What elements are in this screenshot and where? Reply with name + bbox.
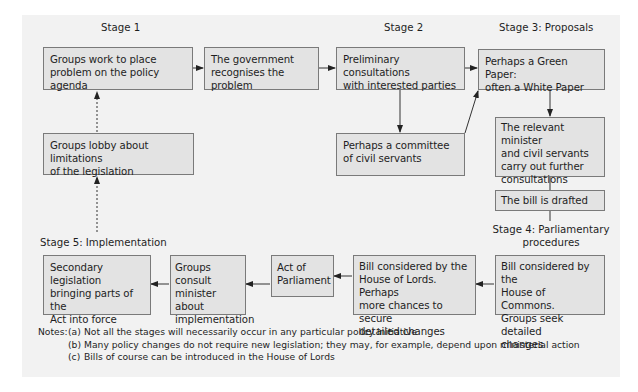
- box-act-of-parliament: Act of Parliament: [271, 255, 334, 297]
- note-b: (b) Many policy changes do not require n…: [38, 339, 580, 352]
- stage-1-label: Stage 1: [101, 21, 140, 34]
- box-committee: Perhaps a committee of civil servants: [336, 133, 465, 176]
- stage-5-label: Stage 5: Implementation: [40, 236, 167, 249]
- note-a: Notes: (a) Not all the stages will neces…: [38, 326, 580, 339]
- stage-4-label: Stage 4: Parliamentary procedures: [492, 223, 610, 249]
- box-groups-consult: Groups consult minister about implementa…: [170, 255, 246, 315]
- stage-2-label: Stage 2: [384, 21, 423, 34]
- box-preliminary-consultations: Preliminary consultations with intereste…: [336, 47, 465, 90]
- box-groups-lobby: Groups lobby about limitations of the le…: [43, 133, 194, 175]
- box-secondary-legislation: Secondary legislation bringing parts of …: [43, 255, 151, 315]
- box-groups-work: Groups work to place problem on the poli…: [43, 47, 193, 90]
- notes-heading: Notes:: [38, 326, 68, 339]
- notes: Notes: (a) Not all the stages will neces…: [38, 326, 580, 364]
- box-government-recognises: The government recognises the problem: [204, 47, 319, 90]
- box-green-paper: Perhaps a Green Paper: often a White Pap…: [478, 49, 605, 90]
- stage-3-label: Stage 3: Proposals: [499, 21, 593, 34]
- box-bill-drafted: The bill is drafted: [495, 190, 605, 211]
- box-relevant-minister: The relevant minister and civil servants…: [495, 117, 605, 177]
- box-house-of-lords: Bill considered by the House of Lords. P…: [353, 255, 476, 315]
- box-house-of-commons: Bill considered by the House of Commons.…: [495, 255, 605, 315]
- note-c: (c) Bills of course can be introduced in…: [38, 351, 580, 364]
